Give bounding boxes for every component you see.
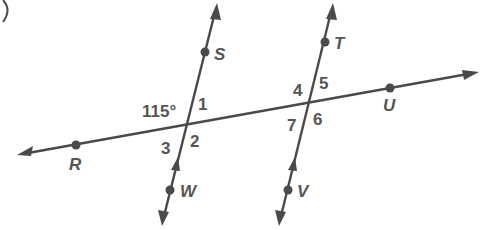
label-w: W [180, 182, 198, 201]
arrowhead-up-icon [326, 3, 337, 20]
label-u: U [383, 96, 396, 115]
arrowhead-down-icon [275, 210, 286, 226]
angle-label-7: 7 [287, 116, 296, 135]
angle-label-3: 3 [161, 139, 170, 158]
angle-label-4: 4 [293, 81, 303, 100]
angle-label-2: 2 [190, 132, 199, 151]
arrowhead-down-icon [158, 210, 169, 226]
label-s: S [214, 45, 226, 64]
angle-label-6: 6 [313, 110, 322, 129]
label-r: R [69, 155, 82, 174]
label-v: V [297, 182, 310, 201]
arrowhead-right-icon [462, 70, 479, 80]
point-s [201, 48, 210, 57]
point-r [72, 141, 81, 150]
label-t: T [334, 34, 346, 53]
angle-label-115: 115° [142, 102, 176, 121]
point-w [166, 186, 175, 195]
parallel-lines-transversal-diagram: S T U R W V 115° 1 2 3 4 5 6 7 [0, 0, 489, 230]
point-u [386, 84, 395, 93]
arrowhead-up-icon [210, 3, 221, 20]
point-v [284, 186, 293, 195]
point-t [321, 38, 330, 47]
transversal-line [17, 70, 479, 156]
corner-paren-mark [3, 0, 8, 22]
arrowhead-left-icon [17, 146, 33, 156]
angle-label-1: 1 [198, 95, 207, 114]
angle-label-5: 5 [319, 74, 328, 93]
